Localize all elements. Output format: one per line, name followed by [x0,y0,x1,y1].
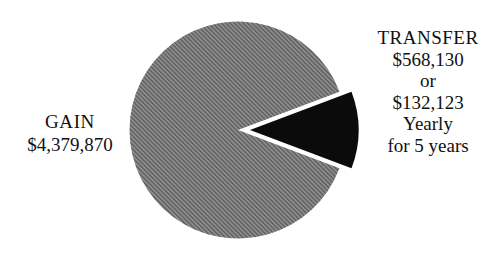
transfer-label-yearly-amount: $132,123 [356,93,500,114]
transfer-label-amount: $568,130 [356,50,500,71]
transfer-label: TRANSFER $568,130 or $132,123 Yearly for… [356,28,500,156]
gain-label-value: $4,379,870 [8,135,132,156]
transfer-label-yearly-word: Yearly [356,114,500,135]
gain-label-title: GAIN [8,112,132,133]
transfer-label-title: TRANSFER [356,28,500,49]
transfer-label-duration: for 5 years [356,136,500,157]
transfer-label-conjunction: or [356,71,500,92]
gain-label: GAIN $4,379,870 [8,112,132,155]
pie-chart: GAIN $4,379,870 TRANSFER $568,130 or $13… [0,0,504,256]
